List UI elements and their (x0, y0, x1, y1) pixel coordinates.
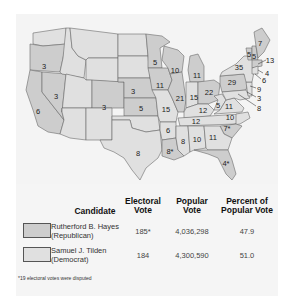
footnote-disputed-votes: *19 electoral votes were disputed (18, 275, 92, 281)
state-label-nevada: 3 (54, 92, 58, 101)
state-new-mexico (86, 108, 112, 140)
header-percent-popular-vote: Percent of Popular Vote (212, 197, 282, 215)
state-label-louisiana: 8* (166, 147, 173, 156)
legend-swatch-republican (23, 223, 51, 238)
state-florida (194, 150, 236, 180)
hayes-electoral-vote: 185* (123, 227, 163, 236)
state-washington (33, 28, 66, 46)
state-label-west-virginia: 5 (216, 101, 220, 110)
state-montana (70, 28, 118, 60)
state-label-north-carolina: 10 (226, 113, 234, 122)
state-north-dakota (118, 34, 148, 56)
state-label-maine: 7 (258, 39, 262, 48)
state-label-texas: 8 (136, 149, 140, 158)
state-colorado (92, 80, 124, 108)
candidate-name: Rutherford B. Hayes (51, 222, 119, 231)
state-label-new-york: 35 (235, 63, 243, 72)
hayes-percent: 47.9 (222, 227, 272, 236)
state-label-oregon: 3 (42, 62, 46, 71)
state-label-alabama: 10 (193, 135, 201, 144)
header-popular-vote: Popular Vote (167, 197, 217, 215)
state-label-florida: 4* (222, 159, 229, 168)
state-label-indiana: 15 (190, 93, 198, 102)
state-utah (62, 74, 92, 112)
state-label-virginia: 11 (225, 102, 233, 111)
callout-label-connecticut: 6 (262, 76, 266, 85)
tilden-popular-vote: 4,300,590 (167, 251, 217, 260)
state-label-tennessee: 12 (192, 117, 200, 126)
state-label-arkansas: 6 (166, 126, 170, 135)
state-arizona (60, 108, 86, 140)
state-maryland (222, 90, 250, 100)
state-label-kansas: 5 (139, 104, 143, 113)
state-south-dakota (118, 56, 150, 78)
candidate-party: (Democrat) (51, 255, 106, 264)
tilden-percent: 51.0 (222, 251, 272, 260)
state-label-colorado: 3 (102, 103, 106, 112)
state-label-pennsylvania: 29 (228, 78, 236, 87)
state-label-california: 6 (36, 107, 40, 116)
callout-label-massachusetts: 13 (266, 56, 274, 65)
candidate-hayes: Rutherford B. Hayes (Republican) (51, 222, 119, 240)
us-electoral-map: 36333551115102111152212511293555710127*6… (0, 0, 287, 200)
callout-label-maryland: 8 (257, 104, 261, 113)
candidate-tilden: Samuel J. Tilden (Democrat) (51, 246, 106, 264)
header-popular-line2: Vote (167, 206, 217, 215)
state-label-wisconsin: 10 (171, 66, 179, 75)
legend-swatch-democrat (23, 247, 51, 262)
state-label-illinois: 21 (176, 94, 184, 103)
header-percent-line2: Popular Vote (212, 206, 282, 215)
state-label-georgia: 11 (209, 133, 217, 142)
state-label-vermont: 5 (247, 50, 251, 59)
state-label-minnesota: 5 (153, 58, 157, 67)
state-label-michigan: 11 (193, 71, 201, 80)
tilden-electoral-vote: 184 (123, 251, 163, 260)
state-label-nebraska: 3 (131, 87, 135, 96)
state-label-south-carolina: 7* (223, 124, 230, 133)
state-wyoming (86, 58, 118, 82)
state-label-iowa: 11 (156, 81, 164, 90)
state-label-missouri: 15 (162, 105, 170, 114)
state-label-ohio: 22 (205, 88, 213, 97)
state-label-mississippi: 8 (181, 137, 185, 146)
candidate-name: Samuel J. Tilden (51, 246, 106, 255)
header-electoral-vote: Electoral Vote (118, 197, 168, 215)
header-electoral-line2: Vote (118, 206, 168, 215)
state-label-kentucky: 12 (199, 106, 207, 115)
callout-label-new-jersey: 9 (257, 85, 261, 94)
callout-label-delaware: 3 (257, 94, 261, 103)
state-label-new-hampshire: 5 (252, 52, 256, 61)
candidate-party: (Republican) (51, 231, 119, 240)
hayes-popular-vote: 4,036,298 (167, 227, 217, 236)
